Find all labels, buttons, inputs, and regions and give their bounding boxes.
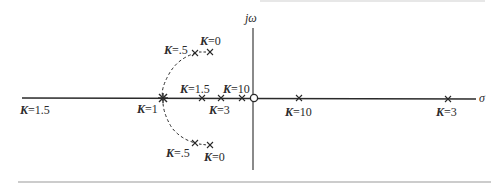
lower-pole-dash [199,144,207,145]
zero-o-icon [250,94,257,101]
real-axis-label: σ [479,92,485,104]
gain-label-k15: K=1.5 [180,83,210,95]
gain-label-k05-lower: K=.5 [166,147,190,159]
gain-label-k15-left: K=1.5 [20,104,50,116]
gain-label-k0-lower: K=0 [204,151,225,163]
gain-label-k1: K=1 [137,103,158,115]
root-locus-diagram: jω σ K=.5 K=0 K=1.5 K=1 K=1.5 K=3 K=10 K… [0,0,491,183]
gain-label-k10-inner: K=10 [223,83,250,95]
gain-label-k3-inner: K=3 [209,104,230,116]
breakaway-star-icon [158,93,168,103]
pole-x-icon [207,142,213,148]
pole-x-icon [192,50,198,56]
imag-axis-label: jω [245,12,257,24]
gain-label-k10-right: K=10 [285,106,312,118]
pole-x-icon [207,49,213,55]
pole-x-icon [192,140,198,146]
gain-label-k05-upper: K=.5 [164,44,188,56]
gain-label-k3-right: K=3 [436,106,457,118]
real-axis [22,98,476,99]
gain-label-k0-upper: K=0 [200,35,221,47]
